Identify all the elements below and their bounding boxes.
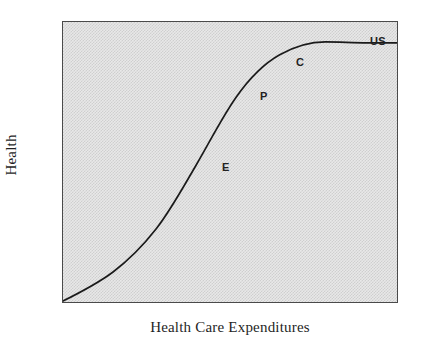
health-production-curve bbox=[63, 22, 397, 302]
chart-figure: Health E P C US Health Care Expenditures bbox=[0, 0, 421, 343]
x-axis-title: Health Care Expenditures bbox=[62, 318, 398, 337]
curve-path bbox=[63, 42, 397, 301]
curve-point-label-c: C bbox=[296, 57, 304, 68]
y-axis-title: Health bbox=[0, 110, 22, 200]
curve-point-label-e: E bbox=[222, 162, 230, 173]
curve-point-label-p: P bbox=[260, 91, 268, 102]
plot-area: E P C US bbox=[62, 21, 398, 303]
curve-point-label-us: US bbox=[370, 36, 386, 47]
